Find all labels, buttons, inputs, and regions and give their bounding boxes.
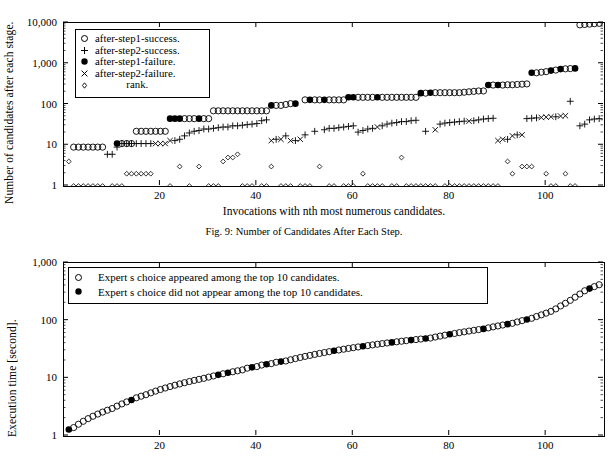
legend-marker-open-circle	[80, 33, 95, 45]
svg-text:10: 10	[46, 138, 58, 150]
svg-text:1: 1	[52, 429, 58, 441]
svg-text:10,000: 10,000	[27, 16, 58, 28]
legend-label: rank.	[95, 79, 180, 91]
svg-text:80: 80	[443, 439, 455, 451]
figure-1-candidates-after-each-step: Number of candidates after each stage. 1…	[0, 0, 608, 248]
legend-row: rank.	[80, 79, 180, 91]
figure2-legend: Expert s choice appeared among the top 1…	[68, 267, 488, 304]
legend-marker-filled-circle	[80, 56, 95, 68]
svg-text:20: 20	[154, 189, 166, 201]
legend-label: after-step1-success.	[95, 33, 180, 45]
svg-text:1: 1	[52, 179, 58, 191]
legend-marker-plus	[80, 45, 95, 57]
svg-text:1,000: 1,000	[32, 256, 57, 268]
legend-marker-diamond	[80, 79, 95, 91]
svg-text:100: 100	[41, 314, 58, 326]
figure1-caption: Fig. 9: Number of Candidates After Each …	[0, 226, 608, 237]
figure1-x-axis-title: Invocations with nth most numerous candi…	[63, 205, 605, 217]
svg-text:20: 20	[154, 439, 166, 451]
svg-text:1,000: 1,000	[32, 57, 57, 69]
svg-text:100: 100	[537, 439, 554, 451]
legend-label: Expert s choice did not appear among the…	[98, 285, 363, 300]
figure1-legend-table: after-step1-success. after-step2-success…	[80, 33, 180, 91]
figure-2-execution-time: Execution time [second]. 1101001,0002040…	[0, 252, 608, 458]
svg-text:100: 100	[41, 98, 58, 110]
legend-label: Expert s choice appeared among the top 1…	[98, 270, 363, 285]
legend-row: Expert s choice appeared among the top 1…	[74, 270, 363, 285]
svg-text:80: 80	[443, 189, 455, 201]
legend-marker-filled-circle	[74, 285, 98, 300]
legend-row: Expert s choice did not appear among the…	[74, 285, 363, 300]
legend-marker-open-circle	[74, 270, 98, 285]
legend-marker-cross	[80, 68, 95, 80]
svg-text:60: 60	[347, 189, 359, 201]
svg-text:40: 40	[250, 189, 262, 201]
figure2-legend-table: Expert s choice appeared among the top 1…	[74, 270, 363, 299]
legend-row: after-step1-success.	[80, 33, 180, 45]
svg-text:100: 100	[537, 189, 554, 201]
svg-text:60: 60	[347, 439, 359, 451]
svg-text:40: 40	[250, 439, 262, 451]
svg-text:10: 10	[46, 371, 58, 383]
figure1-legend: after-step1-success. after-step2-success…	[75, 29, 210, 98]
